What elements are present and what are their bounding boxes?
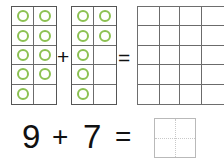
ten-frame-cell-empty[interactable]	[94, 65, 116, 84]
counter-token	[39, 10, 51, 22]
ten-frame-cell[interactable]	[12, 46, 34, 65]
counter-placeholder	[99, 68, 111, 80]
answer-input-box[interactable]	[154, 118, 196, 158]
ten-frame-cell-empty[interactable]	[94, 85, 116, 104]
second-addend-number: 7	[83, 120, 101, 153]
plus-operator-frames: +	[57, 46, 69, 67]
counter-token	[77, 49, 89, 61]
counter-token	[77, 30, 89, 42]
ten-frame-cell[interactable]	[72, 85, 94, 104]
sum-ten-frame-one[interactable]	[137, 6, 183, 105]
ten-frame-cell[interactable]	[94, 26, 116, 45]
ten-frame-cell-empty[interactable]	[202, 7, 224, 26]
ten-frame-cell-empty[interactable]	[138, 65, 160, 84]
ten-frame-cell[interactable]	[34, 46, 56, 65]
equals-operator-frames: =	[118, 47, 130, 68]
counter-token	[17, 10, 29, 22]
counter-placeholder	[99, 49, 111, 61]
answer-value	[155, 119, 195, 157]
plus-operator-number: +	[52, 123, 68, 151]
ten-frame-cell-empty[interactable]	[34, 85, 56, 104]
first-addend-number: 9	[22, 120, 40, 153]
ten-frame-cell-empty[interactable]	[180, 46, 202, 65]
ten-frames-row: + =	[0, 0, 224, 110]
number-sentence-row: 9 + 7 =	[0, 110, 224, 162]
ten-frame-cell[interactable]	[72, 26, 94, 45]
ten-frame-cell[interactable]	[72, 65, 94, 84]
ten-frame-cell-empty[interactable]	[138, 26, 160, 45]
ten-frame-cell[interactable]	[34, 7, 56, 26]
ten-frame-cell[interactable]	[12, 65, 34, 84]
ten-frame-cell-empty[interactable]	[180, 26, 202, 45]
counter-token	[39, 68, 51, 80]
counter-token	[99, 10, 111, 22]
counter-token	[17, 49, 29, 61]
sum-ten-frame-two[interactable]	[179, 6, 224, 105]
ten-frame-cell-empty[interactable]	[138, 85, 160, 104]
ten-frame-cell[interactable]	[12, 7, 34, 26]
ten-frame-cell-empty[interactable]	[180, 7, 202, 26]
counter-placeholder	[99, 88, 111, 100]
ten-frame-cell[interactable]	[34, 26, 56, 45]
counter-placeholder	[39, 88, 51, 100]
first-addend-ten-frame[interactable]	[11, 6, 57, 105]
ten-frame-cell-empty[interactable]	[138, 46, 160, 65]
counter-token	[39, 30, 51, 42]
ten-frame-cell-empty[interactable]	[180, 85, 202, 104]
ten-frame-cell-empty[interactable]	[202, 85, 224, 104]
ten-frame-cell-empty[interactable]	[202, 46, 224, 65]
counter-token	[39, 49, 51, 61]
ten-frame-cell[interactable]	[34, 65, 56, 84]
worksheet-canvas: + =	[0, 0, 224, 162]
ten-frame-cell-empty[interactable]	[202, 26, 224, 45]
counter-token	[77, 10, 89, 22]
ten-frame-cell[interactable]	[12, 85, 34, 104]
equals-operator-number: =	[115, 123, 131, 151]
ten-frame-cell[interactable]	[72, 7, 94, 26]
ten-frame-cell-empty[interactable]	[180, 65, 202, 84]
ten-frame-cell-empty[interactable]	[138, 7, 160, 26]
second-addend-ten-frame[interactable]	[71, 6, 117, 105]
counter-token	[17, 30, 29, 42]
counter-token	[17, 88, 29, 100]
ten-frame-cell-empty[interactable]	[202, 65, 224, 84]
counter-token	[17, 68, 29, 80]
counter-token	[77, 88, 89, 100]
ten-frame-cell[interactable]	[72, 46, 94, 65]
ten-frame-cell[interactable]	[12, 26, 34, 45]
ten-frame-cell[interactable]	[94, 7, 116, 26]
counter-token	[99, 30, 111, 42]
ten-frame-cell-empty[interactable]	[94, 46, 116, 65]
counter-token	[77, 68, 89, 80]
